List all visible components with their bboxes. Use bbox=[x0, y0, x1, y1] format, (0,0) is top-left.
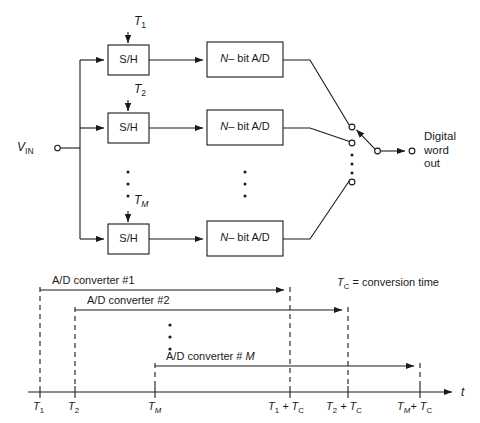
output-label-line2: word bbox=[424, 144, 456, 158]
interval-label-1: A/D converter #1 bbox=[52, 274, 135, 287]
tick-label-tm: TM bbox=[148, 400, 161, 415]
output-label-line3: out bbox=[424, 157, 456, 171]
switch-ellipsis-dot bbox=[351, 154, 354, 157]
output-terminal-icon bbox=[409, 148, 415, 154]
timing-ellipsis-dot bbox=[168, 323, 171, 326]
timing-ellipsis-dot bbox=[168, 335, 171, 338]
sh-label-1: S/H bbox=[108, 53, 149, 65]
tick-label-t2-tc: T2 + TC bbox=[326, 400, 362, 415]
switch-wiper bbox=[357, 130, 376, 149]
vin-label: VIN bbox=[17, 140, 34, 156]
adc-ellipsis-dot bbox=[244, 183, 247, 186]
switch-contact-2-icon bbox=[349, 140, 355, 146]
clock-label-3: TM bbox=[134, 193, 148, 209]
timing-ellipsis-dots bbox=[168, 323, 171, 350]
vin-terminal-icon bbox=[55, 145, 61, 151]
sh-ellipsis-dot bbox=[127, 171, 130, 174]
tick-label-t2: T2 bbox=[68, 400, 79, 415]
adc-ellipsis-dot bbox=[244, 195, 247, 198]
tick-label-tm-tc: TM+ TC bbox=[397, 400, 432, 415]
sh-ellipsis-dot bbox=[127, 183, 130, 186]
tc-legend: TC = conversion time bbox=[337, 276, 439, 291]
tick-label-t1: T1 bbox=[33, 400, 44, 415]
clock-label-1: T1 bbox=[134, 14, 146, 30]
clock-label-2: T2 bbox=[134, 82, 146, 98]
adc-out-3 bbox=[283, 181, 350, 240]
sh-ellipsis-dot bbox=[127, 195, 130, 198]
adc-label-1: N– bit A/D bbox=[207, 52, 283, 64]
interval-label-2: A/D converter #2 bbox=[87, 294, 170, 307]
switch-contact-1-icon bbox=[349, 124, 355, 130]
output-label: Digital word out bbox=[424, 130, 456, 171]
sh-label-3: S/H bbox=[108, 232, 149, 244]
switch-pivot-icon bbox=[375, 148, 381, 154]
sh-label-2: S/H bbox=[108, 121, 149, 133]
block-ellipsis-dots bbox=[127, 154, 354, 198]
output-label-line1: Digital bbox=[424, 130, 456, 144]
adc-out-1 bbox=[283, 60, 350, 126]
figure-root: T1 T2 TM VIN S/H S/H S/H N– bit A/D N– b… bbox=[0, 0, 480, 423]
switch-ellipsis-dot bbox=[351, 172, 354, 175]
tick-label-t1-tc: T1 + TC bbox=[268, 400, 304, 415]
block-diagram-wires bbox=[55, 32, 415, 256]
adc-label-2: N– bit A/D bbox=[207, 120, 283, 132]
adc-ellipsis-dot bbox=[244, 171, 247, 174]
adc-out-2 bbox=[283, 128, 350, 142]
adc-label-3: N– bit A/D bbox=[207, 231, 283, 243]
switch-contact-3-icon bbox=[349, 179, 355, 185]
interval-label-3: A/D converter # M bbox=[166, 350, 255, 363]
time-axis-label: t bbox=[461, 385, 464, 399]
switch-ellipsis-dot bbox=[351, 163, 354, 166]
